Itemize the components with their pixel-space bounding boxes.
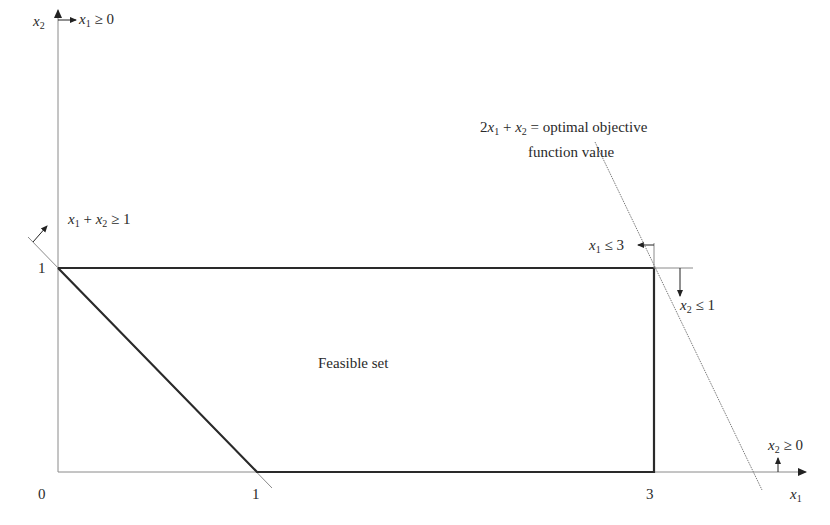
objective-function-line bbox=[595, 142, 762, 490]
objective-label-line1: 2x1 + x2 = optimal objective bbox=[480, 120, 647, 137]
x-tick-1: 1 bbox=[252, 487, 260, 502]
constraint-label-x1-le-3: x1 ≤ 3 bbox=[589, 238, 624, 255]
x-tick-3: 3 bbox=[646, 487, 654, 502]
x-tick-0: 0 bbox=[38, 487, 46, 502]
constraint-label-x1-nonneg: x1 ≥ 0 bbox=[79, 12, 114, 29]
y-tick-1: 1 bbox=[38, 261, 46, 276]
x1-plus-x2-direction-arrow bbox=[33, 226, 47, 242]
constraint-label-x2-nonneg: x2 ≥ 0 bbox=[768, 438, 803, 455]
feasible-set-label: Feasible set bbox=[318, 356, 388, 371]
x-axis-label: x1 bbox=[790, 487, 802, 504]
objective-label-line2: function value bbox=[528, 145, 614, 160]
y-axis-label: x2 bbox=[33, 14, 45, 31]
lp-diagram-canvas bbox=[0, 0, 830, 525]
constraint-label-x1-plus-x2: x1 + x2 ≥ 1 bbox=[68, 212, 131, 229]
constraint-label-x2-le-1: x2 ≤ 1 bbox=[680, 298, 715, 315]
